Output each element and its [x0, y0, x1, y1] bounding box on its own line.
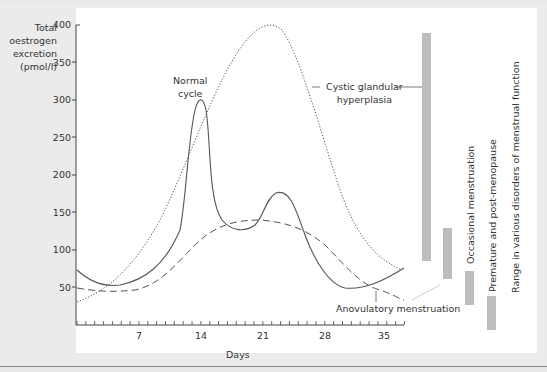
normal-cycle-label: Normal cycle	[173, 74, 207, 100]
label-line: cycle	[173, 87, 207, 100]
premature-menopause-label: Premature and post-menopause	[487, 139, 498, 292]
range-bar-premature	[487, 296, 496, 330]
cystic-hyperplasia-label: Cystic glandular hyperplasia	[326, 80, 403, 106]
occasional-menstruation-label: Occasional menstruation	[465, 146, 476, 264]
x-tick-marks	[77, 321, 404, 325]
range-bar-anovulatory	[443, 228, 452, 279]
range-title: Range in various disorders of menstrual …	[510, 61, 521, 293]
range-bar-occasional	[465, 271, 474, 305]
normal-cycle-curve	[77, 100, 404, 288]
range-bar-cystic	[422, 33, 431, 261]
anovulatory-bar-leader-line	[412, 285, 440, 300]
label-line: Normal	[173, 74, 207, 87]
label-line: Cystic glandular	[326, 80, 403, 93]
label-line: hyperplasia	[326, 93, 403, 106]
cystic-hyperplasia-curve	[77, 25, 402, 302]
anovulatory-label: Anovulatory menstruation	[336, 303, 460, 314]
